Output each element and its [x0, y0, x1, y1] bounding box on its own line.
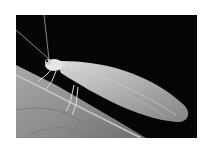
- lacewing-photo: [16, 15, 197, 138]
- photo-illustration: [16, 15, 197, 138]
- insect-body: [45, 59, 63, 71]
